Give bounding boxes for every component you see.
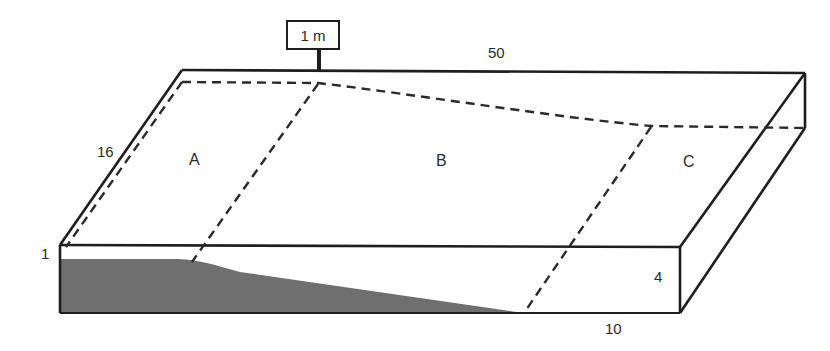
shaded-wedge — [61, 259, 523, 313]
dimension-width-left: 16 — [97, 143, 114, 160]
diagram-canvas: 1 m 50 16 1 4 10 A B C — [0, 0, 830, 351]
zone-label-c: C — [683, 153, 695, 170]
divider-b-c — [524, 127, 651, 313]
dimension-thickness-left: 1 — [41, 245, 49, 262]
marker-post: 1 m — [287, 21, 339, 71]
divider-a-b — [192, 84, 318, 262]
zone-label-a: A — [189, 151, 200, 168]
left-inner-dashed — [66, 82, 182, 247]
dimension-thickness-right: 4 — [654, 268, 662, 285]
dimension-width-front-right: 10 — [605, 320, 622, 337]
zone-label-b: B — [436, 152, 447, 169]
top-front-edge — [60, 245, 680, 247]
top-left-edge — [60, 70, 182, 245]
back-dashed-line — [182, 82, 805, 128]
top-back-edge — [182, 70, 805, 73]
dimension-length-top: 50 — [488, 44, 505, 61]
marker-label: 1 m — [300, 27, 325, 44]
